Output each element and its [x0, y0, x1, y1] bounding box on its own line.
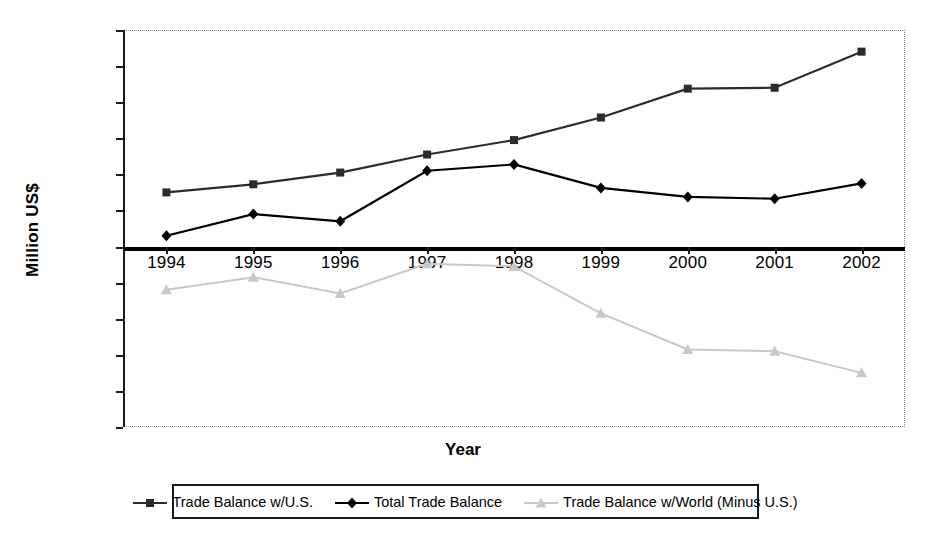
square-marker-icon [133, 496, 167, 508]
series-3 [161, 258, 867, 377]
data-point [684, 85, 692, 93]
data-point [510, 136, 518, 144]
data-point [596, 182, 606, 193]
data-point [422, 165, 432, 176]
y-axis-title: Million US$ [23, 135, 43, 325]
data-point [162, 188, 170, 196]
data-point [771, 84, 779, 92]
data-point [248, 209, 258, 220]
y-tick [116, 391, 123, 393]
y-tick [116, 66, 123, 68]
y-tick [116, 427, 123, 429]
data-point [335, 216, 345, 227]
data-point [248, 272, 259, 282]
legend-item-3[interactable]: Trade Balance w/World (Minus U.S.) [524, 494, 798, 510]
y-tick [116, 283, 123, 285]
y-tick [116, 30, 123, 32]
series-lines [123, 30, 905, 427]
data-point [595, 308, 606, 318]
triangle-marker-icon [524, 496, 558, 508]
y-tick [116, 355, 123, 357]
data-point [336, 169, 344, 177]
data-point [858, 48, 866, 56]
data-point [249, 180, 257, 188]
chart-legend: Trade Balance w/U.S.Total Trade BalanceT… [172, 484, 759, 519]
data-point [683, 191, 693, 202]
y-tick [116, 319, 123, 321]
data-point [770, 193, 780, 204]
legend-label: Total Trade Balance [374, 494, 502, 510]
data-point [857, 178, 867, 189]
y-tick [116, 247, 123, 249]
data-point [161, 230, 171, 241]
series-2 [161, 159, 866, 241]
chart-container: Million US$ 120,000100,00080,00060,00040… [0, 0, 926, 534]
y-tick [116, 102, 123, 104]
y-tick [116, 138, 123, 140]
data-point [423, 151, 431, 159]
legend-item-1[interactable]: Trade Balance w/U.S. [133, 494, 313, 510]
series-1 [162, 48, 865, 197]
diamond-marker-icon [335, 496, 369, 508]
data-point [509, 159, 519, 170]
legend-label: Trade Balance w/U.S. [172, 494, 313, 510]
legend-item-2[interactable]: Total Trade Balance [335, 494, 502, 510]
data-point [597, 114, 605, 122]
y-tick [116, 174, 123, 176]
legend-label: Trade Balance w/World (Minus U.S.) [563, 494, 798, 510]
y-tick [116, 210, 123, 212]
x-axis-title: Year [0, 440, 926, 460]
plot-area: 120,000100,00080,00060,00040,00020,0000–… [123, 30, 905, 427]
